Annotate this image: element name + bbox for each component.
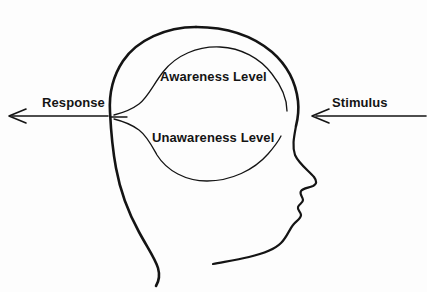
head-profile-diagram: [0, 0, 427, 292]
skull-back-outline: [110, 27, 196, 286]
response-arrow: [9, 109, 108, 123]
unawareness-lobe-outline: [114, 119, 281, 181]
diagram-canvas: Awareness Level Unawareness Level Respon…: [0, 0, 427, 292]
face-profile-outline: [213, 126, 316, 264]
stimulus-arrow: [312, 109, 426, 123]
awareness-level-label: Awareness Level: [160, 70, 267, 83]
unawareness-level-label: Unawareness Level: [152, 131, 274, 144]
stimulus-label: Stimulus: [332, 96, 388, 109]
response-label: Response: [42, 96, 105, 109]
